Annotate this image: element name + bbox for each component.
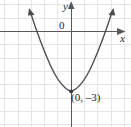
y-axis [68,1,75,127]
graph-figure: y x 0 (0, –3) [0,0,131,127]
origin-label: 0 [59,20,65,31]
coordinate-plane-svg [0,0,131,127]
x-axis-label: x [120,33,125,44]
vertex-coordinate-label: (0, –3) [71,92,100,103]
grid-lines [0,0,131,127]
y-axis-label: y [63,1,68,12]
